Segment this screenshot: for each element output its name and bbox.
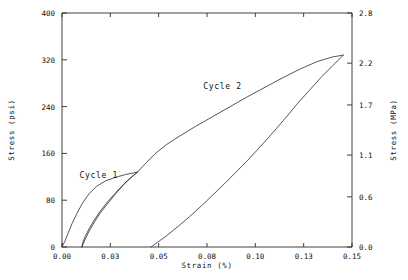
x-tick-label: 0.15: [343, 252, 361, 261]
y-tick-label-left: 0: [50, 243, 55, 252]
x-tick-label: 0.13: [295, 252, 313, 261]
y-axis-left-ticks: 080160240320400: [41, 9, 67, 252]
x-tick-label: 0.03: [101, 252, 119, 261]
y-tick-label-right: 1.1: [359, 151, 373, 160]
plot-frame: [62, 13, 352, 247]
x-tick-label: 0.00: [53, 252, 72, 261]
x-tick-label: 0.05: [150, 252, 168, 261]
y-tick-label-right: 2.2: [359, 59, 373, 68]
curve-annotations: Cycle 1Cycle 2: [79, 82, 241, 180]
y-axis-right-title: Stress (MPa): [389, 99, 398, 160]
y-tick-label-right: 0.6: [359, 193, 373, 202]
annotation-label: Cycle 2: [203, 82, 242, 91]
x-tick-label: 0.08: [198, 252, 217, 261]
y-tick-label-left: 80: [46, 196, 56, 205]
curve-cycle-1-unloading: [82, 172, 137, 247]
y-axis-right-ticks: 0.00.61.11.72.22.8: [347, 9, 373, 252]
x-axis-title: Strain (%): [181, 261, 232, 270]
curve-cycle-1-reload: [82, 172, 137, 247]
curve-cycle-1-loading: [62, 172, 137, 247]
x-tick-label: 0.10: [246, 252, 265, 261]
y-tick-label-left: 240: [41, 103, 55, 112]
y-tick-label-left: 400: [41, 9, 55, 18]
stress-strain-chart: 0.000.030.050.080.100.130.15 08016024032…: [0, 0, 408, 280]
curve-cycle-2-loading: [137, 55, 343, 172]
y-tick-label-right: 1.7: [359, 101, 373, 110]
y-tick-label-right: 2.8: [359, 9, 373, 18]
x-axis-ticks: 0.000.030.050.080.100.130.15: [53, 13, 361, 261]
y-tick-label-left: 160: [41, 149, 55, 158]
annotation-label: Cycle 1: [79, 171, 118, 180]
y-tick-label-left: 320: [41, 56, 55, 65]
curve-cycle-2-unloading: [151, 55, 343, 247]
y-tick-label-right: 0.0: [359, 243, 373, 252]
y-axis-left-title: Stress (psi): [7, 99, 16, 160]
chart-svg: 0.000.030.050.080.100.130.15 08016024032…: [0, 0, 408, 280]
